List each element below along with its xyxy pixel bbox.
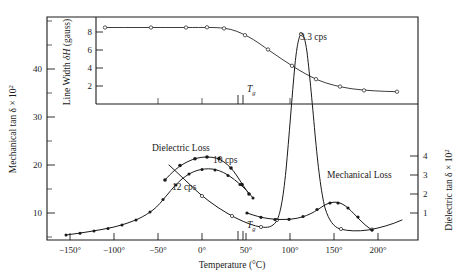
inset-tick-label-6: 6: [88, 45, 93, 55]
tg-marker-main: Tg: [238, 220, 256, 240]
right-tick-label-3: 3: [423, 170, 428, 180]
inset-y-axis-ticks: [96, 32, 103, 86]
x-tick-label-150: 150°: [325, 245, 343, 255]
dielectric-loss-label: Dielectric Loss: [152, 143, 210, 153]
left-tick-label-10: 10: [33, 208, 43, 218]
right-axis-title-group: Dielectric tan δ × 102: [443, 149, 455, 231]
tg-marker-inset: Tg: [238, 84, 256, 104]
svg-text:Tg: Tg: [247, 84, 256, 96]
x-tick-label-100: 100°: [281, 245, 299, 255]
inset-x-axis-ticks: [158, 98, 290, 104]
svg-text:Line Width δH (gauss): Line Width δH (gauss): [62, 19, 73, 105]
right-tick-label-2: 2: [423, 189, 428, 199]
inset-axis-title-unit: (gauss): [62, 19, 73, 46]
x-axis-tick-labels: −150° −100° −50° 0° 50° 100° 150° 200°: [59, 245, 387, 255]
twelve-cps-label: 12 cps: [172, 182, 197, 192]
right-axis-ticks: [410, 156, 418, 213]
x-axis-ticks: [70, 233, 378, 240]
series-mechanical-loss-12cps: [65, 168, 255, 237]
left-axis-ticks: [47, 21, 55, 237]
right-axis-tick-labels: 1 2 3 4: [423, 151, 428, 218]
x-axis-title: Temperature (°C): [199, 260, 266, 271]
series-mechanical-loss-33cps: [169, 32, 402, 231]
svg-text:Mechanical tan δ × 102: Mechanical tan δ × 102: [7, 84, 19, 173]
inset-tick-label-4: 4: [88, 63, 93, 73]
right-axis-title: Dielectric tan δ × 10: [444, 153, 454, 231]
left-axis-title-group: Mechanical tan δ × 102: [7, 84, 19, 173]
mechanical-loss-12cps-markers: [65, 168, 255, 237]
inset-tick-label-8: 8: [88, 27, 93, 37]
inset-y-axis-tick-labels: 2 4 6 8: [88, 27, 93, 91]
inset-tick-label-2: 2: [88, 81, 93, 91]
chart-canvas: 10 20 30 40 Mechanical tan δ × 102 1 2 3…: [0, 0, 464, 275]
svg-text:Dielectric tan δ × 102: Dielectric tan δ × 102: [443, 149, 455, 231]
tg-inset-subscript: g: [252, 89, 256, 96]
left-tick-label-40: 40: [33, 64, 43, 74]
ten-cps-label: 10 cps: [213, 155, 238, 165]
right-tick-label-1: 1: [423, 208, 428, 218]
left-tick-label-30: 30: [33, 112, 43, 122]
x-tick-label-0: 0°: [198, 245, 207, 255]
mechanical-loss-label: Mechanical Loss: [327, 170, 392, 180]
x-tick-label-200: 200°: [369, 245, 387, 255]
left-tick-label-20: 20: [33, 160, 43, 170]
inset-y-axis-title-group: Line Width δH (gauss): [62, 19, 73, 105]
x-tick-label-neg50: −50°: [149, 245, 167, 255]
inset-plot-axes: [96, 17, 418, 104]
x-tick-label-50: 50°: [240, 245, 253, 255]
left-axis-tick-labels: 10 20 30 40: [33, 64, 43, 218]
x-tick-label-neg150: −150°: [59, 245, 82, 255]
right-tick-label-4: 4: [423, 151, 428, 161]
inset-axis-title-plain: Line Width: [62, 62, 72, 105]
svg-text:Tg: Tg: [247, 220, 256, 232]
left-axis-title: Mechanical tan δ × 10: [8, 88, 18, 173]
right-axis-exponent: 2: [443, 149, 451, 153]
peak-cps-label: 3.3 cps: [300, 32, 327, 42]
x-tick-label-neg100: −100°: [103, 245, 126, 255]
left-axis-exponent: 2: [7, 84, 15, 88]
figure-container: 10 20 30 40 Mechanical tan δ × 102 1 2 3…: [0, 0, 464, 275]
